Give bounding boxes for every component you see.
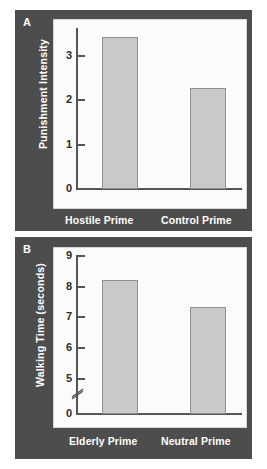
panel-b: B Walking Time (seconds) 056789 Elderly … bbox=[13, 235, 254, 461]
y-axis-tick bbox=[78, 255, 85, 257]
y-axis-tick bbox=[78, 144, 85, 146]
panel-b-plot-area: 056789 bbox=[53, 247, 247, 428]
panel-a-axes: 0123 bbox=[54, 20, 246, 208]
panel-b-category-label-0: Elderly Prime bbox=[69, 435, 137, 447]
panel-a-plot-area: 0123 bbox=[53, 19, 247, 209]
panel-a-y-axis-title: Punishment Intensity bbox=[37, 19, 49, 169]
y-axis-tick-label: 5 bbox=[58, 373, 72, 384]
y-axis-tick-label: 1 bbox=[58, 139, 72, 150]
y-axis-tick-label: 3 bbox=[58, 50, 72, 61]
bar bbox=[190, 88, 226, 189]
panel-b-y-axis-title: Walking Time (seconds) bbox=[34, 250, 46, 400]
panel-b-category-label-1: Neutral Prime bbox=[161, 435, 231, 447]
y-axis-tick-label: 9 bbox=[58, 250, 72, 261]
y-axis-tick-label: 0 bbox=[58, 408, 72, 419]
y-axis-tick bbox=[78, 347, 85, 349]
y-axis-tick-label: 6 bbox=[58, 342, 72, 353]
y-axis-tick-label: 8 bbox=[58, 281, 72, 292]
y-axis-tick bbox=[78, 286, 85, 288]
figure-container: A Punishment Intensity 0123 Hostile Prim… bbox=[0, 0, 267, 469]
y-axis-tick-label: 7 bbox=[58, 311, 72, 322]
bar bbox=[190, 307, 226, 414]
y-axis-tick-label: 2 bbox=[58, 94, 72, 105]
y-axis-line bbox=[76, 28, 78, 190]
y-axis-tick bbox=[78, 378, 85, 380]
panel-a: A Punishment Intensity 0123 Hostile Prim… bbox=[13, 8, 254, 233]
y-axis-tick bbox=[78, 55, 85, 57]
y-axis-tick-label: 0 bbox=[58, 183, 72, 194]
bar bbox=[102, 37, 138, 189]
bar bbox=[102, 280, 138, 414]
panel-a-letter: A bbox=[23, 16, 31, 28]
panel-b-axes: 056789 bbox=[54, 248, 246, 427]
y-axis-tick bbox=[78, 99, 85, 101]
panel-a-category-label-1: Control Prime bbox=[161, 214, 232, 226]
y-axis-tick bbox=[78, 316, 85, 318]
panel-b-letter: B bbox=[23, 243, 31, 255]
y-axis-break-icon bbox=[71, 386, 85, 404]
panel-a-category-label-0: Hostile Prime bbox=[65, 214, 133, 226]
